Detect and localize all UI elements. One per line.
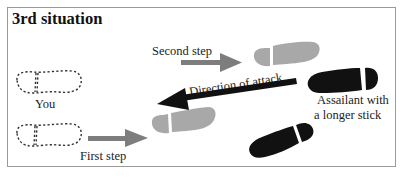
assailant-label-line2: a longer stick: [314, 108, 382, 122]
footwork-diagram: 3rd situation You First step Second step…: [0, 0, 404, 182]
assailant-footprint-top-icon: [308, 68, 378, 93]
assailant-label-line1: Assailant with: [317, 93, 390, 107]
you-label: You: [35, 97, 56, 111]
first-step-label: First step: [80, 149, 126, 163]
diagram-title: 3rd situation: [12, 9, 102, 28]
assailant-footprint-bottom-icon: [249, 123, 313, 158]
you-footprint-top-icon: [17, 71, 81, 93]
second-step-footprint-icon: [254, 42, 320, 66]
first-step-arrow-icon: [88, 129, 148, 147]
second-step-label: Second step: [152, 44, 212, 58]
first-step-footprint-icon: [152, 107, 216, 133]
you-footprint-bottom-icon: [17, 124, 81, 146]
